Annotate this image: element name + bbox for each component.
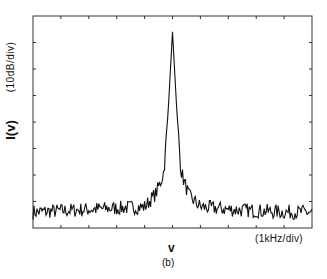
figure-caption: (b) bbox=[162, 257, 174, 268]
y-units-text: (10dB/div) bbox=[5, 42, 16, 93]
y-axis-label: I(v) bbox=[3, 110, 17, 150]
y-axis-units: (10dB/div) bbox=[3, 22, 17, 112]
x-axis-label: v bbox=[168, 241, 175, 255]
axis-ticks bbox=[33, 16, 312, 228]
spectrum-trace bbox=[33, 32, 312, 220]
x-axis-units: (1kHz/div) bbox=[255, 233, 303, 244]
plot-frame bbox=[33, 16, 312, 228]
y-axis-text: I(v) bbox=[3, 120, 18, 140]
